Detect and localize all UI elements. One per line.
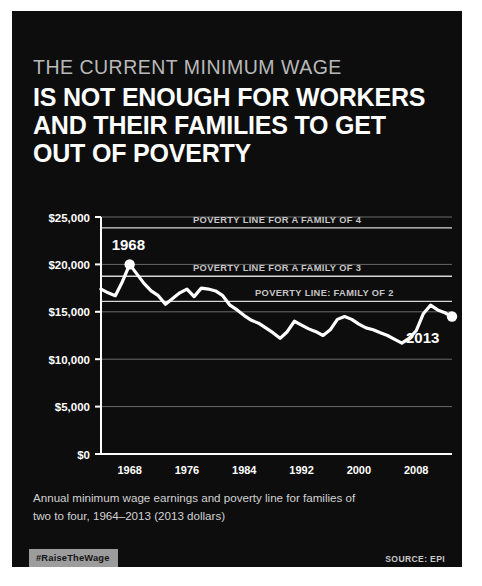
data-point-marker	[447, 311, 457, 321]
data-point-marker	[124, 259, 134, 269]
page-title: IS NOT ENOUGH FOR WORKERS AND THEIR FAMI…	[33, 83, 443, 167]
axes-group	[95, 217, 452, 454]
x-axis-tick-label: 1976	[175, 464, 199, 476]
poverty-line-label: POVERTY LINE FOR A FAMILY OF 4	[193, 215, 362, 225]
x-axis-tick-label: 1968	[117, 464, 141, 476]
y-axis-tick-label: $15,000	[48, 306, 90, 318]
x-axis-tick-label: 1984	[232, 464, 257, 476]
title-line-3: OUT OF POVERTY	[33, 139, 443, 167]
y-axis-tick-label: $20,000	[48, 259, 90, 271]
chart-svg: POVERTY LINE FOR A FAMILY OF 4POVERTY LI…	[12, 197, 462, 487]
poverty-line-label: POVERTY LINE: FAMILY OF 2	[255, 288, 394, 298]
x-axis-tick-label: 2008	[404, 464, 428, 476]
poverty-reference-lines-group: POVERTY LINE FOR A FAMILY OF 4POVERTY LI…	[101, 215, 452, 301]
y-axis-tick-label: $5,000	[55, 401, 90, 413]
headline-block: THE CURRENT MINIMUM WAGE IS NOT ENOUGH F…	[33, 56, 443, 167]
title-line-1: IS NOT ENOUGH FOR WORKERS	[33, 83, 443, 111]
infographic-poster: THE CURRENT MINIMUM WAGE IS NOT ENOUGH F…	[12, 11, 462, 567]
caption-line-1: Annual minimum wage earnings and poverty…	[33, 489, 443, 507]
source-label: SOURCE: EPI	[385, 554, 445, 564]
x-axis-tick-label: 1992	[289, 464, 313, 476]
x-axis-tick-labels: 196819761984199220002008	[117, 464, 428, 476]
caption-line-2: two to four, 1964–2013 (2013 dollars)	[33, 507, 443, 525]
data-point-annotation: 1968	[112, 236, 145, 253]
title-line-2: AND THEIR FAMILIES TO GET	[33, 111, 443, 139]
x-axis-tick-label: 2000	[347, 464, 371, 476]
y-axis-tick-label: $10,000	[48, 354, 90, 366]
hashtag-badge: #RaiseTheWage	[29, 549, 118, 567]
chart-caption: Annual minimum wage earnings and poverty…	[33, 489, 443, 525]
y-axis-tick-labels: $0$5,000$10,000$15,000$20,000$25,000	[48, 212, 90, 461]
y-axis-tick-label: $25,000	[48, 212, 90, 224]
eyebrow-text: THE CURRENT MINIMUM WAGE	[33, 56, 443, 78]
y-axis-tick-label: $0	[77, 449, 90, 461]
data-point-annotation: 2013	[406, 329, 439, 346]
line-chart: POVERTY LINE FOR A FAMILY OF 4POVERTY LI…	[12, 197, 462, 487]
poverty-line-label: POVERTY LINE FOR A FAMILY OF 3	[193, 263, 361, 273]
